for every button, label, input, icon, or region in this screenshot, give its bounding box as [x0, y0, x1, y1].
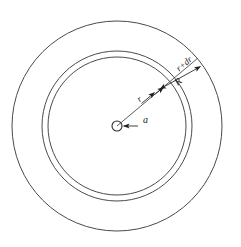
- radius-r-plus-dr-arrow: [153, 88, 164, 97]
- label-radius-r: r: [135, 93, 144, 103]
- radius-r-arrow: [142, 93, 155, 104]
- concentric-circles-diagram: a r r+dr R: [0, 0, 241, 247]
- label-radius-a: a: [143, 114, 148, 125]
- figure-canvas: a r r+dr R: [0, 0, 241, 247]
- label-radius-r-plus-dr: r+dr: [174, 54, 194, 73]
